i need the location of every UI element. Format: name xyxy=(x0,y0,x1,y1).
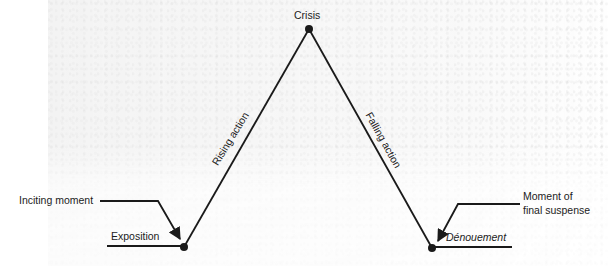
final-suspense-label-line1: Moment of xyxy=(523,190,573,203)
inciting-moment-label: Inciting moment xyxy=(19,194,93,207)
exposition-label: Exposition xyxy=(111,230,159,243)
crisis-label: Crisis xyxy=(294,9,320,22)
denouement-point xyxy=(428,244,436,252)
freytag-pyramid-diagram xyxy=(0,0,612,266)
crisis-point xyxy=(305,25,313,33)
exposition-point xyxy=(180,243,188,251)
rising-action-line xyxy=(184,29,309,247)
denouement-label: Dénouement xyxy=(446,231,506,244)
falling-action-line xyxy=(309,29,432,248)
final-suspense-label-line2: final suspense xyxy=(523,204,590,217)
